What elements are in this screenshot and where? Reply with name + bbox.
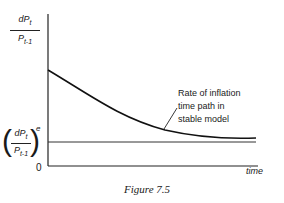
expected-inflation-label: ( dPt Pt-1 ) e bbox=[2, 124, 44, 160]
y-axis-label-numerator: dPt bbox=[10, 14, 40, 28]
origin-label: 0 bbox=[36, 162, 42, 173]
figure-caption: Figure 7.5 bbox=[124, 183, 170, 195]
x-axis-label: time bbox=[246, 166, 263, 176]
y-axis-label-denominator: Pt-1 bbox=[10, 33, 40, 47]
expected-inflation-fraction: dPt Pt-1 bbox=[11, 128, 31, 159]
annotation-pointer bbox=[164, 108, 177, 129]
curve-annotation: Rate of inflation time path in stable mo… bbox=[178, 87, 241, 126]
expectation-superscript: e bbox=[36, 124, 40, 133]
fraction-bar bbox=[10, 30, 40, 31]
chart-canvas bbox=[0, 0, 284, 203]
y-axis-label: dPt Pt-1 bbox=[10, 14, 40, 47]
